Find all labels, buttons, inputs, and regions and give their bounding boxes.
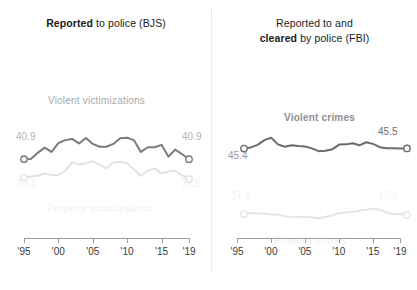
x-axis-tick-fbi-19 [400,238,401,243]
x-axis-label-fbi-05: '05 [298,246,311,257]
x-axis-label-fbi-10: '10 [332,246,345,257]
chart-root: Reported to police (BJS) Violent victimi… [0,0,417,290]
x-axis-tick-fbi-05 [305,238,306,243]
endpoint-marker-violent-crimes-end [404,145,410,151]
endpoint-marker-property-victimizations-start [21,174,27,180]
x-axis-tick-bjs-95 [24,238,25,243]
x-axis-fbi: '95'00'05'10'15'19 [237,238,400,268]
endpoint-marker-property-victimizations-end [186,176,192,182]
x-axis-label-bjs-10: '10 [121,246,134,257]
x-axis-label-fbi-19: '19 [393,246,406,257]
x-axis-label-fbi-15: '15 [366,246,379,257]
endpoint-marker-violent-victimizations-start [21,156,27,162]
line-property-crimes [244,208,407,218]
x-axis-line-bjs [24,238,189,239]
line-violent-victimizations [24,138,189,159]
x-axis-tick-bjs-15 [162,238,163,243]
x-axis-label-bjs-15: '15 [155,246,168,257]
x-axis-tick-bjs-00 [58,238,59,243]
endpoint-marker-property-crimes-start [241,211,247,217]
x-axis-bjs: '95'00'05'10'15'19 [24,238,189,268]
x-axis-tick-bjs-10 [127,238,128,243]
x-axis-line-fbi [237,238,400,239]
x-axis-label-bjs-05: '05 [86,246,99,257]
endpoint-marker-property-crimes-end [404,212,410,218]
x-axis-tick-fbi-00 [271,238,272,243]
x-axis-label-fbi-00: '00 [264,246,277,257]
x-axis-label-bjs-00: '00 [52,246,65,257]
x-axis-tick-bjs-05 [93,238,94,243]
x-axis-label-bjs-19: '19 [182,246,195,257]
line-violent-crimes [244,138,407,151]
endpoint-violent-crimes-end: 45.5 [378,126,397,137]
x-axis-tick-fbi-95 [237,238,238,243]
x-axis-tick-fbi-15 [373,238,374,243]
endpoint-property-crimes-end: 17.2 [378,190,397,201]
endpoint-property-crimes-start: 17.6 [231,190,250,201]
x-axis-label-bjs-95: '95 [17,246,30,257]
x-axis-tick-bjs-19 [189,238,190,243]
x-axis-tick-fbi-10 [339,238,340,243]
line-property-victimizations [24,161,189,179]
endpoint-violent-crimes-start: 45.4 [228,150,247,161]
endpoint-marker-violent-victimizations-end [186,156,192,162]
x-axis-label-fbi-95: '95 [230,246,243,257]
